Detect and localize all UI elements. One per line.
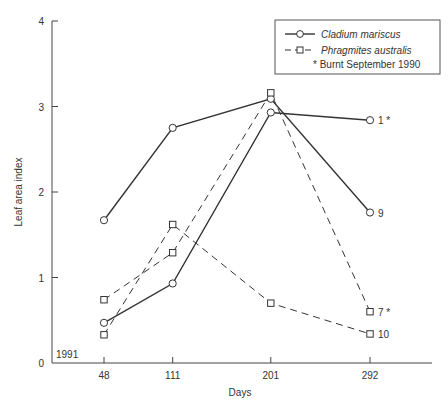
leaf-area-index-chart: 01234 48111201292 Leaf area index Days 1… [0, 0, 448, 403]
data-point-circle [366, 117, 373, 124]
y-axis-label: Leaf area index [13, 158, 24, 227]
data-point-square [169, 221, 175, 227]
year-annotation: 1991 [56, 349, 79, 360]
legend-note: * Burnt September 1990 [313, 59, 421, 70]
x-ticks: 48111201292 [98, 357, 378, 381]
legend-marker-square [297, 47, 303, 53]
x-tick-label: 201 [262, 370, 279, 381]
data-point-square [367, 309, 373, 315]
x-tick-label: 48 [98, 370, 110, 381]
data-point-circle [267, 109, 274, 116]
data-point-circle [169, 280, 176, 287]
series-end-label: 1 * [378, 115, 390, 126]
y-ticks: 01234 [38, 16, 58, 369]
series-end-label: 9 [378, 208, 384, 219]
y-tick-label: 1 [38, 273, 44, 284]
y-tick-label: 3 [38, 102, 44, 113]
series-line-phragmites [104, 224, 370, 334]
legend: Cladium mariscusPhragmites australis * B… [275, 20, 440, 74]
legend-entry-label: Phragmites australis [321, 45, 412, 56]
x-tick-label: 292 [362, 370, 379, 381]
data-point-circle [100, 217, 107, 224]
legend-entry-label: Cladium mariscus [321, 29, 400, 40]
data-point-square [101, 297, 107, 303]
series-lines [104, 93, 370, 335]
data-point-circle [366, 209, 373, 216]
x-axis-label: Days [229, 387, 252, 398]
data-point-square [101, 332, 107, 338]
y-tick-label: 2 [38, 187, 44, 198]
x-tick-label: 111 [165, 370, 181, 381]
series-end-label: 7 * [378, 307, 390, 318]
data-point-circle [100, 319, 107, 326]
data-point-square [169, 250, 175, 256]
series-end-label: 10 [378, 329, 390, 340]
series-line-cladium [104, 112, 370, 322]
data-point-square [268, 300, 274, 306]
y-tick-label: 4 [38, 16, 44, 27]
series-line-phragmites [104, 93, 370, 312]
y-tick-label: 0 [38, 358, 44, 369]
data-point-circle [169, 124, 176, 131]
end-labels: 1 *97 *10 [378, 115, 390, 340]
data-point-square [268, 90, 274, 96]
legend-marker-circle [297, 31, 304, 38]
data-point-square [367, 331, 373, 337]
